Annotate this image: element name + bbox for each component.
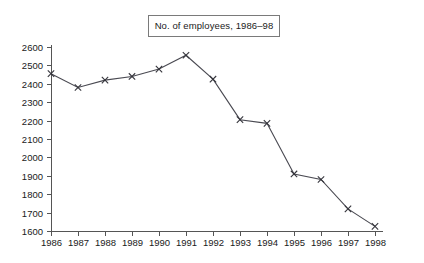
data-markers <box>48 52 378 230</box>
chart-container: No. of employees, 1986–98 16001700180019… <box>0 0 424 263</box>
x-axis-tick-label: 1986 <box>41 237 62 248</box>
y-axis-tick-label: 2300 <box>22 97 43 108</box>
x-axis-tick-label: 1992 <box>203 237 224 248</box>
y-axis-tick-label: 2500 <box>22 60 43 71</box>
data-point-marker <box>156 66 162 72</box>
data-point-marker <box>75 84 81 90</box>
x-axis-tick-label: 1989 <box>122 237 143 248</box>
chart-plot-area: 1600170018001900200021002200230024002500… <box>0 0 424 263</box>
x-axis-tick-label: 1988 <box>95 237 116 248</box>
y-axis-tick-label: 2600 <box>22 42 43 53</box>
y-axis-tick-label: 2100 <box>22 134 43 145</box>
x-axis-tick-label: 1997 <box>338 237 359 248</box>
data-point-marker <box>372 223 378 229</box>
y-axis-tick-label: 2200 <box>22 116 43 127</box>
y-axis-tick-label: 2400 <box>22 79 43 90</box>
x-axis-tick-label: 1990 <box>149 237 170 248</box>
x-axis-tick-label: 1987 <box>68 237 89 248</box>
x-axis-tick-label: 1995 <box>284 237 305 248</box>
series-line-employees <box>51 55 375 226</box>
x-axis-tick-label: 1994 <box>257 237 278 248</box>
data-point-marker <box>183 52 189 58</box>
y-axis-tick-label: 1700 <box>22 208 43 219</box>
data-series <box>51 55 375 226</box>
y-axis-tick-label: 2000 <box>22 152 43 163</box>
x-axis-tick-label: 1998 <box>365 237 386 248</box>
y-axis-tick-label: 1900 <box>22 171 43 182</box>
y-axis: 1600170018001900200021002200230024002500… <box>22 42 52 237</box>
x-axis: 1986198719881989199019911992199319941995… <box>41 232 386 249</box>
y-axis-tick-label: 1600 <box>22 226 43 237</box>
x-axis-tick-label: 1991 <box>176 237 197 248</box>
x-axis-tick-label: 1996 <box>311 237 332 248</box>
data-point-marker <box>210 76 216 82</box>
data-point-marker <box>345 206 351 212</box>
y-axis-tick-label: 1800 <box>22 189 43 200</box>
x-axis-tick-label: 1993 <box>230 237 251 248</box>
